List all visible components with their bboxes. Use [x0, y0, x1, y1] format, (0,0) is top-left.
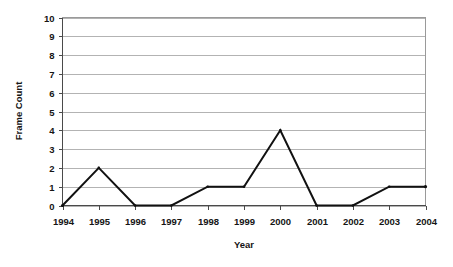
chart-canvas: 012345678910 199419951996199719981999200… [0, 0, 453, 267]
data-point [315, 204, 318, 207]
y-tick-label: 6 [49, 88, 54, 99]
data-point [279, 129, 282, 132]
data-point [206, 185, 209, 188]
x-tick-label: 2001 [307, 216, 329, 227]
x-tick-label: 2002 [343, 216, 364, 227]
x-tick-label: 1997 [161, 216, 182, 227]
x-tick-label: 1999 [234, 216, 255, 227]
x-tick-label: 2004 [416, 216, 438, 227]
line-chart: 012345678910 199419951996199719981999200… [0, 0, 453, 267]
y-tick-label: 9 [49, 31, 54, 42]
x-tick-label: 1994 [53, 216, 75, 227]
data-point [134, 204, 137, 207]
y-tick-label: 7 [49, 69, 54, 80]
x-tick-label: 1995 [89, 216, 111, 227]
data-point [352, 204, 355, 207]
x-axis-title: Year [234, 239, 254, 250]
y-tick-label: 5 [49, 107, 55, 118]
data-point [388, 185, 391, 188]
y-axis-title: Frame Count [13, 81, 24, 140]
x-tick-label: 1996 [125, 216, 146, 227]
data-point [61, 204, 64, 207]
y-tick-label: 4 [49, 125, 55, 136]
y-tick-label: 0 [49, 201, 54, 212]
y-tick-label: 1 [49, 182, 55, 193]
x-tick-label: 2000 [270, 216, 291, 227]
data-point [98, 167, 101, 170]
data-point [424, 185, 427, 188]
data-point [243, 185, 246, 188]
data-point [170, 204, 173, 207]
y-tick-label: 3 [49, 144, 54, 155]
y-tick-label: 8 [49, 50, 54, 61]
chart-background [0, 0, 453, 267]
y-tick-label: 10 [44, 13, 55, 24]
x-tick-label: 1998 [198, 216, 219, 227]
x-tick-label: 2003 [379, 216, 400, 227]
y-tick-label: 2 [49, 163, 54, 174]
